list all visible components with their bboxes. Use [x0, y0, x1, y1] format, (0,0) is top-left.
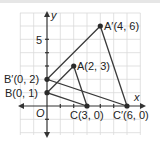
label-c: C(3, 0): [70, 109, 104, 121]
x-axis-label: x: [133, 91, 140, 103]
point-b-prime: [44, 77, 49, 82]
point-a-prime: [98, 23, 103, 28]
point-a: [71, 63, 76, 68]
point-b: [44, 90, 49, 95]
coordinate-plane: y x 5 O A′(4, 6) A(2, 3) B′(0, 2) B(0, 1…: [0, 0, 160, 143]
point-c-prime: [124, 103, 129, 108]
label-b: B(0, 1): [5, 87, 38, 99]
label-b-prime: B′(0, 2): [4, 73, 39, 85]
y-axis-arrow-down-icon: [44, 132, 50, 138]
label-a: A(2, 3): [77, 60, 110, 72]
x-axis-arrow-left-icon: [18, 103, 24, 109]
point-c: [84, 103, 89, 108]
label-c-prime: C′(6, 0): [113, 109, 149, 121]
y-axis-label: y: [50, 9, 58, 21]
label-a-prime: A′(4, 6): [104, 20, 139, 32]
y-axis-arrow-up-icon: [44, 11, 50, 17]
y-tick-label-5: 5: [36, 34, 42, 46]
origin-label: O: [36, 107, 45, 119]
